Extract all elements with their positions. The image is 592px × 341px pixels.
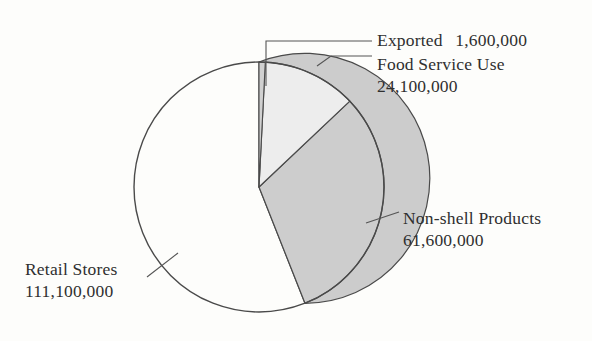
- slice-label-non-shell-products-name: Non-shell Products: [403, 207, 541, 229]
- slice-label-food-service-use-name: Food Service Use: [377, 53, 505, 75]
- slice-label-non-shell-products: Non-shell Products 61,600,000: [403, 207, 541, 251]
- slice-label-retail-stores-name: Retail Stores: [25, 258, 118, 280]
- leader-line-retail-stores: [147, 253, 178, 277]
- slice-label-food-service-use-value: 24,100,000: [377, 75, 505, 97]
- pie-chart: Exported 1,600,000 Food Service Use 24,1…: [0, 0, 592, 341]
- slice-label-exported-value: 1,600,000: [455, 30, 527, 50]
- slice-label-exported: Exported 1,600,000: [377, 29, 527, 51]
- slice-label-food-service-use: Food Service Use 24,100,000: [377, 53, 505, 97]
- slice-label-exported-name: Exported: [377, 30, 443, 50]
- slice-label-retail-stores: Retail Stores 111,100,000: [25, 258, 118, 302]
- slice-label-non-shell-products-value: 61,600,000: [403, 229, 541, 251]
- slice-label-retail-stores-value: 111,100,000: [25, 280, 118, 302]
